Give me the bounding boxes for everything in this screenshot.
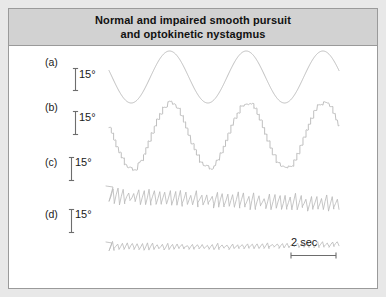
time-scale-label: 2 sec <box>291 236 317 248</box>
scale-label-c: 15° <box>75 156 92 168</box>
eye-movement-trace-chart <box>9 46 377 288</box>
figure-root: Normal and impaired smooth pursuit and o… <box>0 0 386 297</box>
plot-area: (a) 15° (b) 15° (c) 15° (d) 15° 2 sec <box>9 46 377 288</box>
scale-label-a: 15° <box>79 68 96 80</box>
scale-label-d: 15° <box>75 208 92 220</box>
row-label-d: (d) <box>45 208 58 220</box>
row-label-c: (c) <box>45 156 57 168</box>
scale-label-b: 15° <box>79 111 96 123</box>
row-label-a: (a) <box>45 56 58 68</box>
panel-header: Normal and impaired smooth pursuit and o… <box>9 9 377 46</box>
row-label-b: (b) <box>45 101 58 113</box>
figure-panel: Normal and impaired smooth pursuit and o… <box>8 8 378 289</box>
page-title: Normal and impaired smooth pursuit and o… <box>89 13 297 41</box>
